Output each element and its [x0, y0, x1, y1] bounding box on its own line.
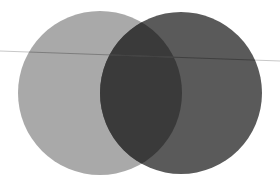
figure-canvas: Two overlapping translucent circles with… — [0, 0, 280, 185]
overlapping-circles-figure: Two overlapping translucent circles with… — [0, 0, 280, 185]
